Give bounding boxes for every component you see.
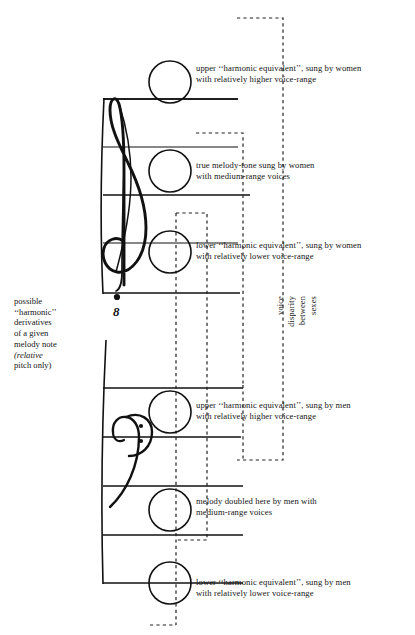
note-lower-harmonic-women: [149, 231, 191, 273]
left-caption: possible ‘‘harmonic’’ derivatives of a g…: [14, 296, 94, 371]
annotation-line-2: with relatively lower voice-range: [196, 251, 361, 262]
annotation-line-2: medium-range voices: [196, 507, 317, 518]
dashed-bracket-women-lower: [176, 213, 207, 540]
music-staff-diagram: 8: [0, 0, 415, 635]
annotation-line-2: with medium-range voices: [196, 171, 315, 182]
note-upper-harmonic-men: [149, 391, 191, 433]
left-caption-line-6: (relative: [14, 350, 94, 361]
dashed-bracket-outer: [237, 18, 283, 460]
annotation-lower-harmonic-men: lower ‘‘harmonic equivalent’’, sung by m…: [196, 577, 351, 598]
note-melody-doubled-men: [149, 489, 191, 531]
annotation-upper-harmonic-women: upper ‘‘harmonic equivalent’’, sung by w…: [196, 63, 361, 84]
voice-disparity-line-2: disparity: [287, 296, 296, 327]
left-caption-line-7: pitch only): [14, 360, 94, 371]
annotation-line-2: with relatively lower voice-range: [196, 588, 351, 599]
annotation-line-1: true melody-tone sung by women: [196, 160, 315, 171]
annotation-melody-doubled-men: melody doubled here by men with medium-r…: [196, 496, 317, 517]
upper-staff-barline: [101, 98, 104, 294]
annotation-true-melody-women: true melody-tone sung by women with medi…: [196, 160, 315, 181]
bass-clef-icon: [110, 415, 152, 507]
voice-disparity-line-4: sexes: [309, 296, 318, 315]
voice-disparity-line-3: between: [298, 296, 307, 325]
annotation-line-1: melody doubled here by men with: [196, 496, 317, 507]
left-caption-line-2: ‘‘harmonic’’: [14, 307, 94, 318]
left-caption-line-4: of a given: [14, 328, 94, 339]
voice-disparity-label: voice disparity between sexes: [276, 296, 350, 342]
left-caption-line-3: derivatives: [14, 317, 94, 328]
annotation-lower-harmonic-women: lower ‘‘harmonic equivalent’’, sung by w…: [196, 240, 361, 261]
lower-staff: [102, 340, 243, 584]
left-caption-line-1: possible: [14, 296, 94, 307]
voice-disparity-line-1: voice: [276, 296, 285, 315]
left-caption-line-5: melody note: [14, 339, 94, 350]
annotation-line-1: upper ‘‘harmonic equivalent’’, sung by m…: [196, 400, 351, 411]
treble-clef-icon: [103, 99, 146, 300]
octave-marker-8: 8: [113, 304, 120, 319]
note-upper-harmonic-women: [149, 61, 191, 103]
annotation-line-1: lower ‘‘harmonic equivalent’’, sung by m…: [196, 577, 351, 588]
bass-clef-dot-upper: [139, 424, 143, 428]
treble-clef-dot: [114, 294, 120, 300]
dashed-brackets: [150, 18, 283, 625]
annotation-line-1: lower ‘‘harmonic equivalent’’, sung by w…: [196, 240, 361, 251]
lower-staff-barline: [102, 340, 106, 584]
annotation-upper-harmonic-men: upper ‘‘harmonic equivalent’’, sung by m…: [196, 400, 351, 421]
annotation-line-2: with relatively higher voice-range: [196, 411, 351, 422]
bass-clef-dot-lower: [139, 439, 143, 443]
annotation-line-1: upper ‘‘harmonic equivalent’’, sung by w…: [196, 63, 361, 74]
annotation-line-2: with relatively higher voice-range: [196, 74, 361, 85]
note-true-melody-women: [149, 150, 191, 192]
